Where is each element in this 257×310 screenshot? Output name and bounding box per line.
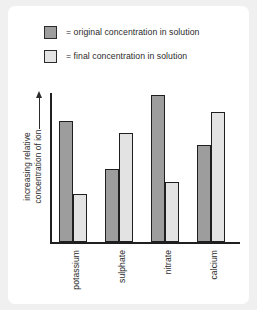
bar-original [151,95,165,243]
bar-group [104,93,134,242]
y-axis-label: increasing relative concentration of ion [22,113,43,221]
bar-final [165,182,179,242]
bar-original [197,145,211,242]
figure-card: = original concentration in solution = f… [8,6,249,304]
x-axis-category-label: calcium [209,250,219,279]
bar-group [58,93,88,242]
bar-groups [52,93,240,242]
bar-original [105,169,119,242]
bar-final [211,112,225,242]
bar-chart-plot: increasing relative concentration of ion… [8,6,249,304]
bar-final [73,194,87,242]
x-axis-category-label: sulphate [117,250,127,283]
bar-final [119,133,133,242]
bar-group [150,93,180,242]
x-axis-line [50,242,240,244]
x-axis-category-label: potassium [71,250,81,290]
bar-original [59,121,73,242]
x-axis-category-label: nitrate [163,250,173,274]
bar-group [196,93,226,242]
